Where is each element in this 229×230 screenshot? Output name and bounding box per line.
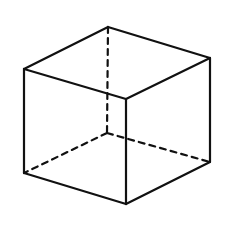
hidden-edge-bottom_back_hidden-bottom_right: [107, 133, 210, 162]
edge-top_back-top_left: [24, 27, 108, 69]
edge-top_left-top_front: [24, 69, 126, 99]
cube-diagram: [0, 0, 229, 230]
edge-top_right-top_front: [126, 58, 210, 99]
hidden-edge-bottom_back_hidden-bottom_left: [24, 133, 107, 173]
visible-edges: [24, 27, 210, 204]
edge-bottom_left-bottom_front: [24, 173, 126, 204]
edge-bottom_front-bottom_right: [126, 162, 210, 204]
hidden-edge-top_back-bottom_back_hidden: [107, 27, 108, 133]
edge-top_back-top_right: [108, 27, 210, 58]
